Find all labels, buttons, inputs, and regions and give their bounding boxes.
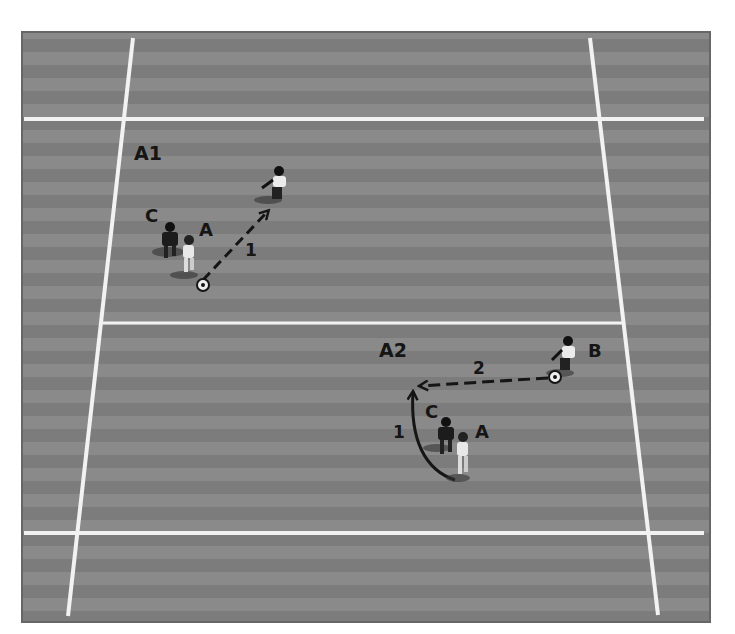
player-label-b: B [588,340,602,361]
ball-icon [197,279,209,291]
player-label-a: A [199,219,213,240]
player-label-a-bottom: A [475,421,489,442]
player-label-c-bottom: C [425,401,438,422]
step-label-1: 1 [245,240,257,260]
step-label-2: 2 [473,358,485,378]
zone-label-a2: A2 [379,339,407,361]
step-label-run-1: 1 [393,422,405,442]
drill-diagram: A1 1 C A A2 2 1 [0,0,735,634]
zone-label-a1: A1 [134,142,162,164]
player-label-c: C [145,205,158,226]
ball-b-icon [549,371,561,383]
